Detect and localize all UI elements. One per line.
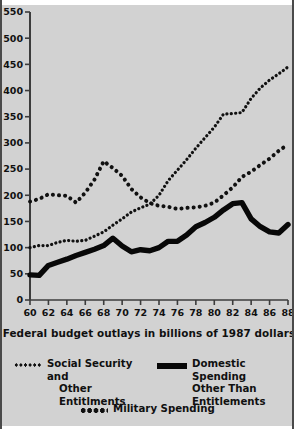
chart-figure: 050100150200250300350400450500550 606264…	[0, 0, 294, 429]
plot-area: 050100150200250300350400450500550 606264…	[2, 0, 294, 330]
x-tick-label: 82	[226, 307, 239, 318]
legend-item-social-security: Social Security and Other Entitlments	[14, 358, 154, 408]
chart-legend: Social Security and Other Entitlments Do…	[2, 355, 294, 425]
legend-label-military-spending: Military Spending	[113, 403, 215, 416]
x-tick-label: 72	[134, 307, 147, 318]
x-tick-label: 66	[79, 307, 93, 318]
y-tick-label: 400	[3, 85, 23, 96]
x-tick-label: 64	[60, 307, 74, 318]
y-tick-label: 150	[3, 216, 23, 227]
y-tick-label: 200	[3, 190, 23, 201]
x-axis-ticks: 606264666870727476788082848688	[23, 300, 294, 318]
x-tick-label: 84	[245, 307, 259, 318]
x-tick-label: 62	[42, 307, 55, 318]
x-tick-label: 74	[152, 307, 166, 318]
x-tick-label: 76	[171, 307, 185, 318]
y-tick-label: 50	[10, 268, 24, 279]
x-tick-label: 78	[189, 307, 203, 318]
data-series-group	[30, 67, 288, 275]
chart-caption: Federal budget outlays in billions of 19…	[2, 327, 294, 339]
y-tick-label: 450	[3, 59, 23, 70]
legend-item-military-spending: Military Spending	[80, 403, 280, 416]
legend-label-domestic-spending: Domestic Spending Other Than Entitlement…	[192, 358, 293, 408]
y-tick-label: 500	[3, 33, 23, 44]
legend-item-domestic-spending: Domestic Spending Other Than Entitlement…	[157, 358, 293, 408]
x-tick-label: 70	[116, 307, 130, 318]
y-tick-label: 550	[3, 6, 23, 17]
y-axis-ticks: 050100150200250300350400450500550	[3, 6, 30, 305]
coarse-dotted-line-swatch-icon	[80, 408, 108, 413]
x-tick-label: 80	[208, 307, 222, 318]
y-tick-label: 0	[16, 294, 23, 305]
y-tick-label: 350	[3, 111, 23, 122]
y-tick-label: 300	[3, 137, 23, 148]
y-tick-label: 100	[3, 242, 23, 253]
x-tick-label: 86	[263, 307, 277, 318]
data-series-line	[30, 144, 288, 208]
y-tick-label: 250	[3, 163, 23, 174]
x-tick-label: 60	[23, 307, 37, 318]
x-tick-label: 88	[281, 307, 294, 318]
legend-label-social-security: Social Security and Other Entitlments	[47, 358, 154, 408]
fine-dotted-line-swatch-icon	[14, 363, 42, 367]
x-tick-label: 68	[97, 307, 111, 318]
solid-bold-line-swatch-icon	[157, 363, 187, 369]
